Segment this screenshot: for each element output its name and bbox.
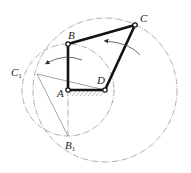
label-B: B (68, 29, 75, 41)
label-D: D (96, 74, 105, 86)
label-C1: C1 (11, 66, 22, 80)
construction-line-C1-B1 (37, 74, 68, 136)
joint-A (66, 88, 70, 92)
ground-hatch (70, 91, 103, 96)
link-BC (68, 25, 135, 44)
construction-line-C1-D (37, 74, 105, 90)
joint-B (66, 42, 70, 46)
joint-D (103, 88, 107, 92)
label-C: C (140, 12, 148, 24)
rotation-arrow-B (47, 57, 82, 63)
link-CD (105, 25, 135, 90)
joint-C (133, 23, 137, 27)
label-B1: B1 (65, 139, 76, 153)
linkage-diagram: B C A D C1 B1 (0, 0, 191, 173)
label-A: A (56, 87, 64, 99)
